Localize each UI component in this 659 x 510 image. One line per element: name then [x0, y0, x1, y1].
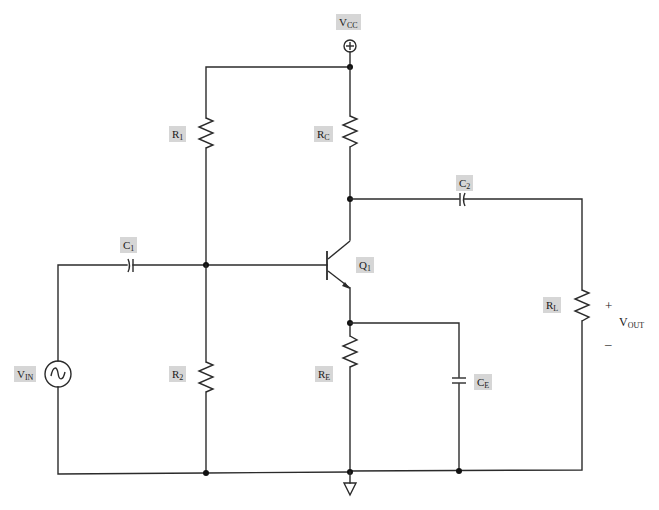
c1-capacitor-icon	[128, 259, 133, 272]
rc-label-sub: C	[324, 133, 329, 142]
q1-npn-transistor-icon	[327, 241, 350, 289]
vcc-label-sub: CC	[347, 21, 358, 30]
c2-label: C2	[456, 175, 473, 191]
rc-resistor-icon	[343, 116, 357, 147]
rc-label: RC	[314, 126, 333, 142]
rl-lower-wire	[350, 321, 582, 471]
vcc-label-main: V	[339, 16, 347, 28]
vout-label-sub: OUT	[628, 321, 644, 330]
vout-plus-sign: +	[605, 299, 612, 312]
vin-label-sub: IN	[25, 373, 33, 382]
r1-label-sub: 1	[179, 133, 183, 142]
c1-label-sub: 1	[130, 244, 134, 253]
vin-ac-source-icon	[45, 361, 71, 387]
rl-label-sub: L	[553, 304, 558, 313]
vout-label-main: V	[619, 315, 628, 329]
vcc-label: VCC	[336, 14, 361, 30]
re-resistor-icon	[343, 336, 357, 367]
r1-label: R1	[169, 126, 186, 142]
ce-upper-wire	[350, 323, 459, 377]
r2-label-sub: 2	[179, 373, 183, 382]
ground-node-ce	[456, 468, 462, 474]
vin-upper-wire	[58, 265, 127, 361]
rl-label: RL	[543, 297, 561, 313]
ce-label: CE	[474, 374, 492, 390]
ground-icon	[344, 483, 356, 495]
top-rail-wire	[206, 67, 350, 118]
re-label-sub: E	[325, 373, 330, 382]
q1-label-sub: 1	[367, 264, 371, 273]
re-label: RE	[315, 366, 333, 382]
ce-label-sub: E	[484, 381, 489, 390]
rl-resistor-icon	[575, 290, 589, 321]
vin-label: VIN	[14, 366, 36, 382]
r2-resistor-icon	[199, 362, 213, 392]
vout-minus-sign: –	[605, 337, 612, 350]
vout-label: VOUT	[619, 315, 644, 330]
c2-label-sub: 2	[466, 182, 470, 191]
ground-rail-wire	[58, 387, 350, 474]
q1-label: Q1	[356, 257, 374, 273]
c1-label: C1	[120, 237, 137, 253]
circuit-schematic	[0, 0, 659, 510]
r2-label: R2	[169, 366, 186, 382]
vcc-terminal-icon	[344, 40, 356, 52]
q1-label-main: Q	[359, 259, 367, 271]
ce-capacitor-icon	[452, 378, 466, 383]
ground-node-r2	[203, 470, 209, 476]
vin-label-main: V	[17, 368, 25, 380]
c2-right-wire	[464, 199, 582, 290]
r1-resistor-icon	[199, 118, 213, 148]
